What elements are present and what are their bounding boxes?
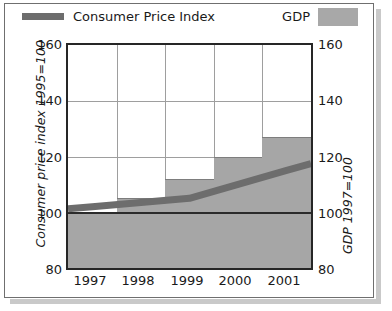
page-drop-shadow-right [376,9,381,303]
y-tick-right-160: 160 [318,37,352,52]
x-tick-2000: 2000 [207,273,263,288]
y-tick-right-120: 120 [318,150,352,165]
legend-line-swatch-icon [22,13,64,20]
legend-item-cpi: Consumer Price Index [22,9,215,24]
y-tick-right-100: 100 [318,206,352,221]
plot-area [66,43,313,270]
y-axis-ticks-right: 160 140 120 100 80 [318,43,356,270]
y-tick-left-140: 140 [28,93,62,108]
page-drop-shadow-bottom [10,299,381,304]
x-tick-1998: 1998 [110,273,166,288]
y-tick-left-160: 160 [28,37,62,52]
legend-item-gdp: GDP [282,8,358,26]
legend-label-cpi: Consumer Price Index [73,9,215,24]
legend-label-gdp: GDP [282,9,310,24]
y-axis-ticks-left: 160 140 120 100 80 [24,43,62,270]
cpi-polyline [68,164,311,209]
legend-bar-swatch-icon [318,8,358,26]
chart-canvas: Consumer price index 1995=100 GDP 1997=1… [4,30,374,298]
cpi-line-series [68,45,311,268]
x-tick-2001: 2001 [256,273,312,288]
y-tick-left-80: 80 [28,262,62,277]
x-axis-ticks: 1997 1998 1999 2000 2001 [66,273,313,293]
y-tick-right-80: 80 [318,262,352,277]
y-tick-right-140: 140 [318,93,352,108]
y-tick-left-100: 100 [28,206,62,221]
chart-legend: Consumer Price Index GDP [4,3,372,30]
y-tick-left-120: 120 [28,150,62,165]
